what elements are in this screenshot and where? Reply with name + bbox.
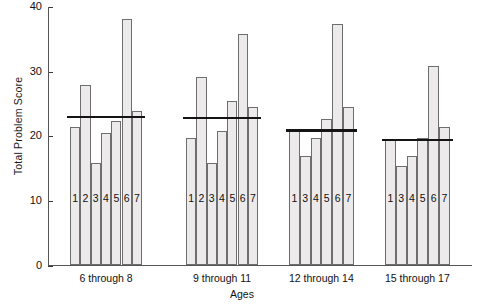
y-tick-label: 20 — [18, 129, 42, 141]
bar-number-label: 4 — [311, 192, 322, 204]
bar-number-label: 5 — [227, 192, 237, 204]
bar-number-label: 4 — [407, 192, 418, 204]
bar — [227, 101, 237, 265]
bar — [407, 156, 418, 266]
y-tick-label: 10 — [18, 194, 42, 206]
bar-number-label: 1 — [289, 192, 300, 204]
bar-number-label: 1 — [385, 192, 396, 204]
bar-number-label: 1 — [186, 192, 196, 204]
bar-number-label: 1 — [70, 192, 80, 204]
bar-number-label: 3 — [91, 192, 101, 204]
bar — [396, 166, 407, 266]
bar-number-label: 7 — [248, 192, 258, 204]
group-mean-line — [183, 117, 261, 119]
bar — [80, 85, 90, 266]
bar-number-label: 2 — [196, 192, 206, 204]
bar-number-label: 3 — [396, 192, 407, 204]
bar — [428, 66, 439, 265]
x-axis-group-label: 6 through 8 — [61, 272, 151, 284]
group-mean-line — [382, 139, 453, 141]
x-axis-group-label: 9 through 11 — [177, 272, 267, 284]
bar-number-label: 7 — [132, 192, 142, 204]
bar-number-label: 4 — [217, 192, 227, 204]
y-tick-label: 30 — [18, 65, 42, 77]
bar-number-label: 6 — [428, 192, 439, 204]
bar-number-label: 3 — [207, 192, 217, 204]
bar — [300, 156, 311, 266]
bar — [332, 24, 343, 265]
bar — [196, 77, 206, 265]
x-axis-title: Ages — [0, 288, 484, 300]
bar-number-label: 4 — [101, 192, 111, 204]
y-tick-label: 0 — [18, 259, 42, 271]
bar — [132, 111, 142, 265]
bar-number-label: 3 — [300, 192, 311, 204]
bar — [238, 34, 248, 265]
group-mean-line — [286, 129, 357, 131]
bar-number-label: 5 — [417, 192, 428, 204]
x-axis-group-label: 15 through 17 — [372, 272, 462, 284]
chart-container: Total Problem Score 010203040 12345676 t… — [0, 0, 484, 306]
bar-number-label: 6 — [122, 192, 132, 204]
bar-number-label: 5 — [321, 192, 332, 204]
bar-number-label: 5 — [111, 192, 121, 204]
bar — [207, 163, 217, 266]
group-mean-line — [67, 116, 145, 118]
bar — [248, 107, 258, 266]
bar — [122, 19, 132, 266]
bar-number-label: 2 — [80, 192, 90, 204]
bar-number-label: 6 — [332, 192, 343, 204]
bar-number-label: 7 — [439, 192, 450, 204]
x-axis-group-label: 12 through 14 — [276, 272, 366, 284]
bar-number-label: 6 — [238, 192, 248, 204]
bar-number-label: 7 — [343, 192, 354, 204]
y-tick-label: 40 — [18, 0, 42, 12]
bar — [91, 163, 101, 265]
y-axis-line — [48, 7, 49, 266]
